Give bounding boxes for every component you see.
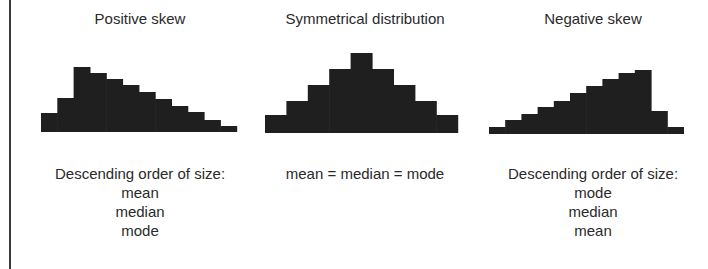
histogram-bar <box>586 86 603 134</box>
caption-line: mode <box>478 183 708 202</box>
histogram-bar <box>667 127 684 134</box>
histogram-bar <box>619 73 636 134</box>
histogram-bar <box>329 69 351 133</box>
histogram-positive-skew <box>30 0 250 150</box>
panel-positive-skew: Positive skew Descending order of size: … <box>30 0 250 269</box>
histogram-bar <box>538 107 555 134</box>
histogram-bar <box>489 127 506 134</box>
histogram-bar <box>57 98 74 132</box>
histogram-bar <box>308 85 330 133</box>
caption: Descending order of size: mean median mo… <box>30 164 250 240</box>
caption: Descending order of size: mode median me… <box>478 164 708 240</box>
histogram-bar <box>635 70 652 134</box>
histogram-bar <box>372 69 394 133</box>
histogram-bar <box>286 101 308 133</box>
caption-line: mean <box>478 221 708 240</box>
caption: mean = median = mode <box>255 164 475 183</box>
caption-line: mean <box>30 183 250 202</box>
caption-line: Descending order of size: <box>30 164 250 183</box>
histogram-symmetrical <box>255 0 475 150</box>
caption-line: mean = median = mode <box>255 164 475 183</box>
panel-symmetrical: Symmetrical distribution mean = median =… <box>255 0 475 269</box>
histogram-bar <box>651 111 668 134</box>
histogram-bar <box>204 120 221 132</box>
histogram-bar <box>90 73 107 132</box>
histogram-bar <box>155 99 172 132</box>
histogram-bar <box>521 114 538 134</box>
caption-line: median <box>30 202 250 221</box>
histogram-bar <box>74 67 91 132</box>
histogram-bar <box>415 101 437 133</box>
histogram-bar <box>188 112 205 132</box>
histogram-bar <box>123 85 140 132</box>
left-border-line <box>9 0 11 269</box>
panel-negative-skew: Negative skew Descending order of size: … <box>478 0 708 269</box>
histogram-bar <box>41 113 58 132</box>
histogram-bar <box>171 106 188 132</box>
caption-line: Descending order of size: <box>478 164 708 183</box>
histogram-bar <box>139 92 156 132</box>
histogram-bar <box>505 120 522 134</box>
histogram-bar <box>106 79 123 132</box>
histogram-bar <box>351 53 373 133</box>
caption-line: median <box>478 202 708 221</box>
histogram-bar <box>570 93 587 134</box>
histogram-bar <box>436 115 458 133</box>
histogram-bar <box>265 115 287 133</box>
histogram-bar <box>393 85 415 133</box>
histogram-bar <box>220 126 237 132</box>
caption-line: mode <box>30 221 250 240</box>
histogram-bar <box>554 101 571 134</box>
histogram-negative-skew <box>478 0 708 150</box>
histogram-bar <box>602 79 619 134</box>
